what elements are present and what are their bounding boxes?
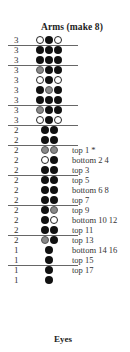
bead-count: 3	[14, 75, 19, 85]
bead-count: 2	[14, 235, 19, 245]
pattern-row: 1top 15	[0, 255, 130, 265]
pattern-row: 2top 9	[0, 205, 130, 215]
row-note: bottom 10 12	[72, 215, 117, 225]
pattern-row: 3	[0, 45, 130, 55]
black-bead-icon	[45, 76, 53, 84]
bead-count: 1	[14, 245, 19, 255]
pattern-row: 3	[0, 95, 130, 105]
pattern-row: 3	[0, 55, 130, 65]
bead-count: 2	[14, 155, 19, 165]
row-note: top 7	[72, 195, 89, 205]
section-title-arms: Arms (make 8)	[0, 22, 130, 32]
black-bead-icon	[50, 196, 58, 204]
pattern-row: 3	[0, 105, 130, 115]
black-bead-icon	[45, 256, 53, 264]
bead-count: 2	[14, 135, 19, 145]
bead-count: 3	[14, 35, 19, 45]
black-bead-icon	[54, 66, 62, 74]
black-bead-icon	[36, 56, 44, 64]
black-bead-icon	[36, 46, 44, 54]
row-note: top 5	[72, 175, 89, 185]
bead-pattern-grid: 333333333222top 1 *2bottom 2 42top 32top…	[0, 35, 130, 285]
white-bead-icon	[36, 76, 44, 84]
black-bead-icon	[45, 46, 53, 54]
pattern-row: 2top 11	[0, 225, 130, 235]
grey-bead-icon	[50, 206, 58, 214]
row-note: bottom 14 16	[72, 245, 117, 255]
bead-count: 2	[14, 185, 19, 195]
black-bead-icon	[41, 136, 49, 144]
row-note: top 3	[72, 165, 89, 175]
pattern-row: 3	[0, 85, 130, 95]
bead-count: 2	[14, 225, 19, 235]
bead-count: 2	[14, 165, 19, 175]
bead-count: 2	[14, 125, 19, 135]
row-note: top 11	[72, 225, 93, 235]
pattern-row: 2top 5	[0, 175, 130, 185]
black-bead-icon	[45, 276, 53, 284]
row-note: top 15	[72, 255, 94, 265]
white-bead-icon	[36, 36, 44, 44]
bead-count: 3	[14, 105, 19, 115]
pattern-row: 1top 17	[0, 265, 130, 275]
pattern-row: 2top 3	[0, 165, 130, 175]
black-bead-icon	[45, 266, 53, 274]
pattern-row: 2bottom 10 12	[0, 215, 130, 225]
black-bead-icon	[41, 126, 49, 134]
bead-count: 3	[14, 115, 19, 125]
black-bead-icon	[41, 226, 49, 234]
black-bead-icon	[50, 136, 58, 144]
black-bead-icon	[50, 186, 58, 194]
black-bead-icon	[45, 116, 53, 124]
grey-bead-icon	[45, 86, 53, 94]
bead-count: 2	[14, 215, 19, 225]
black-bead-icon	[54, 86, 62, 94]
black-bead-icon	[45, 36, 53, 44]
pattern-row: 3	[0, 115, 130, 125]
bead-count: 2	[14, 205, 19, 215]
black-bead-icon	[41, 216, 49, 224]
pattern-row: 2top 13	[0, 235, 130, 245]
black-bead-icon	[54, 106, 62, 114]
pattern-row: 2top 7	[0, 195, 130, 205]
row-note: top 9	[72, 205, 89, 215]
black-bead-icon	[54, 56, 62, 64]
bead-count: 3	[14, 85, 19, 95]
pattern-row: 2bottom 2 4	[0, 155, 130, 165]
black-bead-icon	[45, 96, 53, 104]
black-bead-icon	[50, 126, 58, 134]
grey-bead-icon	[36, 66, 44, 74]
row-note: bottom 6 8	[72, 185, 109, 195]
black-bead-icon	[50, 236, 58, 244]
bead-count: 3	[14, 95, 19, 105]
black-bead-icon	[41, 186, 49, 194]
bead-count: 2	[14, 175, 19, 185]
pattern-row: 1bottom 14 16	[0, 245, 130, 255]
row-note: top 17	[72, 265, 94, 275]
black-bead-icon	[41, 176, 49, 184]
black-bead-icon	[36, 96, 44, 104]
black-bead-icon	[41, 166, 49, 174]
row-note: top 13	[72, 235, 94, 245]
pattern-row: 2bottom 6 8	[0, 185, 130, 195]
pattern-row: 3	[0, 75, 130, 85]
pattern-row: 2	[0, 135, 130, 145]
grey-bead-icon	[36, 106, 44, 114]
row-note: top 1 *	[72, 145, 96, 155]
pattern-row: 2top 1 *	[0, 145, 130, 155]
black-bead-icon	[50, 156, 58, 164]
black-bead-icon	[54, 96, 62, 104]
black-bead-icon	[45, 106, 53, 114]
white-bead-icon	[41, 156, 49, 164]
black-bead-icon	[41, 206, 49, 214]
black-bead-icon	[45, 246, 53, 254]
black-bead-icon	[50, 226, 58, 234]
white-bead-icon	[50, 216, 58, 224]
black-bead-icon	[50, 176, 58, 184]
black-bead-icon	[45, 56, 53, 64]
grey-bead-icon	[41, 146, 49, 154]
bead-count: 3	[14, 45, 19, 55]
black-bead-icon	[54, 46, 62, 54]
pattern-row: 2	[0, 125, 130, 135]
black-bead-icon	[36, 86, 44, 94]
